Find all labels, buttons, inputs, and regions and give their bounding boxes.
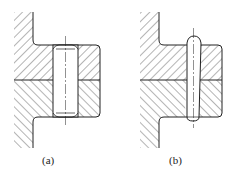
taper-pin (187, 36, 201, 121)
lower-block-right-a (78, 80, 100, 117)
upper-block-right-a (78, 45, 100, 80)
upper-block-right-b (200, 45, 222, 80)
lower-block-right-b (199, 80, 222, 117)
panel-a-cylindrical-pin (14, 12, 100, 148)
panel-b-label: (b) (169, 154, 182, 166)
panel-b-taper-pin (140, 12, 222, 148)
upper-part-b (140, 12, 187, 80)
pin-joint-diagram (0, 0, 234, 179)
panel-a-label: (a) (42, 154, 54, 166)
lower-part-b (140, 80, 186, 148)
